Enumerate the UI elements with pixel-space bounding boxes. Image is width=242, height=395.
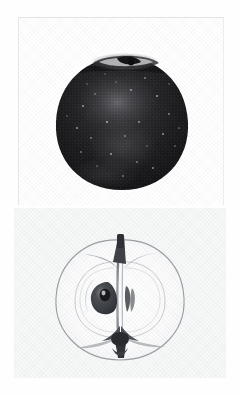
stem-cavity [91,53,159,71]
apple-half-body [56,234,184,360]
page-canvas [0,0,242,395]
cross-section-figure [14,208,226,378]
plate-whole-apple [18,17,224,205]
whole-apple-figure [19,18,224,205]
plate-apple-cross-section [14,208,226,378]
stem-icon [128,56,134,65]
apple-body [19,18,224,205]
halftone-texture [19,18,224,205]
